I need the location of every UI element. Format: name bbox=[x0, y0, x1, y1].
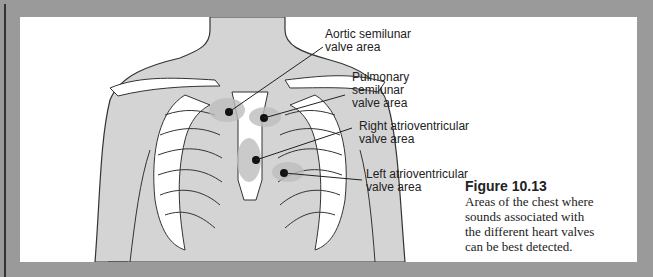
figure-number: Figure 10.13 bbox=[465, 178, 625, 194]
right-av-label: Right atrioventricular valve area bbox=[359, 120, 469, 146]
left-av-label: Left atrioventricular valve area bbox=[366, 168, 468, 194]
frame-edge bbox=[4, 4, 6, 277]
figure-caption: Figure 10.13 Areas of the chest where so… bbox=[465, 178, 625, 254]
pulmonary-label: Pulmonary semilunar valve area bbox=[352, 71, 409, 110]
aortic-label: Aortic semilunar valve area bbox=[325, 28, 411, 54]
